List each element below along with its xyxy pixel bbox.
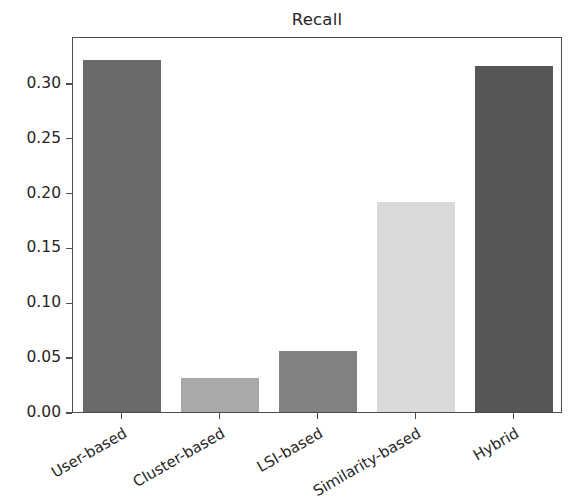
y-tick-label-2: 0.10 bbox=[26, 293, 61, 311]
chart-title: Recall bbox=[72, 10, 562, 29]
bar-lsi-based bbox=[279, 351, 357, 412]
y-tick-mark bbox=[66, 138, 72, 139]
bar-similarity-based bbox=[377, 202, 455, 412]
y-tick-mark bbox=[66, 303, 72, 304]
x-tick-label-text: Hybrid bbox=[470, 424, 522, 464]
x-tick-label-text: User-based bbox=[48, 424, 130, 482]
y-tick-label-3: 0.15 bbox=[26, 238, 61, 256]
y-tick-mark bbox=[66, 357, 72, 358]
y-tick-label-6: 0.30 bbox=[26, 74, 61, 92]
x-tick-mark bbox=[317, 413, 318, 419]
bar-user-based bbox=[83, 60, 161, 412]
x-tick-mark bbox=[121, 413, 122, 419]
bars-layer bbox=[73, 38, 561, 412]
y-tick-mark bbox=[66, 248, 72, 249]
y-tick-label-0: 0.00 bbox=[26, 403, 61, 421]
y-tick-label-5: 0.25 bbox=[26, 129, 61, 147]
bar-hybrid bbox=[475, 66, 553, 412]
x-tick-label-text: Cluster-based bbox=[130, 424, 228, 491]
x-tick-mark bbox=[513, 413, 514, 419]
y-tick-mark bbox=[66, 412, 72, 413]
x-tick-mark bbox=[415, 413, 416, 419]
x-tick-label-text: LSI-based bbox=[254, 424, 326, 476]
y-tick-mark bbox=[66, 83, 72, 84]
bar-cluster-based bbox=[181, 378, 259, 412]
x-tick-mark bbox=[219, 413, 220, 419]
y-tick-label-4: 0.20 bbox=[26, 184, 61, 202]
y-tick-label-1: 0.05 bbox=[26, 348, 61, 366]
y-tick-mark bbox=[66, 193, 72, 194]
plot-area bbox=[72, 37, 562, 413]
